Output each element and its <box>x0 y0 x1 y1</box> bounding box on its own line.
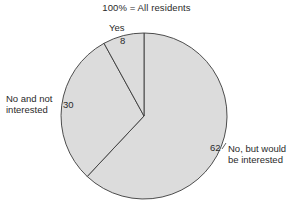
value-yes: 8 <box>120 35 125 46</box>
label-yes: Yes <box>109 22 125 33</box>
label-no-not-line1: No and not <box>6 93 52 104</box>
value-no-not: 30 <box>63 99 74 110</box>
label-no-but-line1: No, but would <box>228 143 286 154</box>
label-no-not-line2: interested <box>6 104 48 115</box>
label-no-but-line2: be interested <box>228 154 283 165</box>
value-no-but: 62 <box>210 142 221 153</box>
